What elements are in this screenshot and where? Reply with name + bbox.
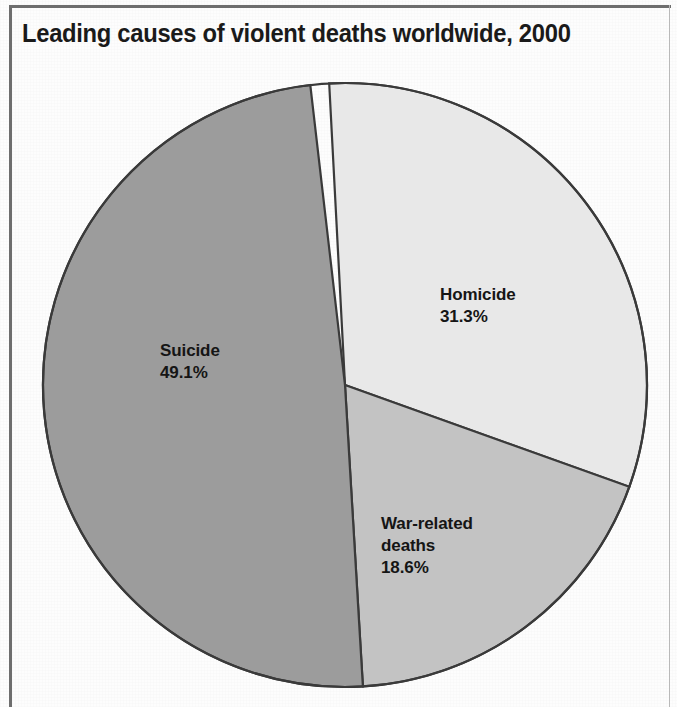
pie-label-suicide-value: 49.1% xyxy=(160,362,220,384)
pie-slice-suicide[interactable] xyxy=(43,85,363,687)
pie-label-homicide-name: Homicide xyxy=(440,284,516,306)
pie-label-war-value: 18.6% xyxy=(381,557,473,579)
pie-label-suicide: Suicide 49.1% xyxy=(160,340,220,384)
pie-label-war-name-line1: War-related xyxy=(381,513,473,535)
pie-chart xyxy=(0,0,677,707)
pie-label-homicide-value: 31.3% xyxy=(440,306,516,328)
pie-label-war-related-deaths: War-related deaths 18.6% xyxy=(381,513,473,579)
pie-label-war-name-line2: deaths xyxy=(381,535,473,557)
figure-page: Leading causes of violent deaths worldwi… xyxy=(0,0,677,707)
pie-label-suicide-name: Suicide xyxy=(160,340,220,362)
pie-label-homicide: Homicide 31.3% xyxy=(440,284,516,328)
